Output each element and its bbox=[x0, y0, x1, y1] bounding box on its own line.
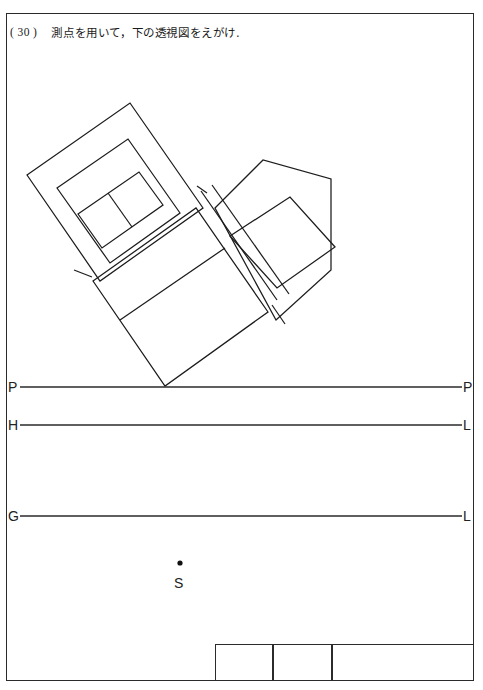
ground-line-label-left: G bbox=[8, 509, 19, 523]
ground-line-label-right: L bbox=[463, 509, 471, 523]
drawing-sheet: ( 30 ) 測点を用いて，下の透視図をえがけ. P P bbox=[0, 0, 483, 690]
room-divider bbox=[108, 193, 132, 227]
pentagon-wing bbox=[215, 160, 331, 320]
picture-plane-label-left: P bbox=[8, 380, 17, 394]
title-block-cell-1[interactable] bbox=[215, 644, 273, 681]
station-point-dot-marker bbox=[177, 560, 182, 565]
horizon-line-label-right: L bbox=[463, 418, 471, 432]
station-point-label: S bbox=[174, 575, 183, 591]
plan-drawing bbox=[0, 0, 483, 690]
wall-band-left-edge bbox=[201, 191, 277, 300]
central-block-divider bbox=[120, 248, 225, 320]
horizon-line-label-left: H bbox=[8, 418, 18, 432]
title-block-cell-2[interactable] bbox=[273, 644, 332, 681]
outer-block-upper-left bbox=[27, 103, 203, 281]
tick-mark-left bbox=[74, 270, 92, 277]
picture-plane-label-right: P bbox=[463, 380, 472, 394]
wall-band-right-edge bbox=[212, 185, 289, 294]
title-block-cell-3[interactable] bbox=[332, 644, 474, 681]
central-block bbox=[93, 208, 268, 386]
inner-rect-wing bbox=[230, 197, 335, 288]
tick-mark-right bbox=[272, 305, 285, 324]
